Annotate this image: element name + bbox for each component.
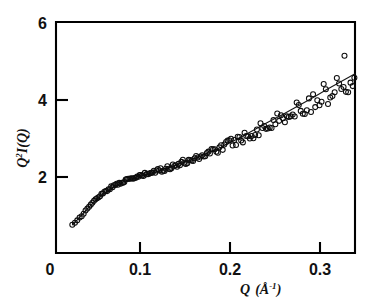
plot-frame: [56, 22, 355, 253]
y-tick-label-4: 4: [38, 92, 47, 109]
data-point: [311, 92, 316, 97]
svg-text:Q2I(Q): Q2I(Q): [14, 128, 31, 168]
x-tick-label-0.3: 0.3: [309, 261, 331, 278]
y-axis-ticks: [56, 23, 68, 177]
data-point-group: [70, 53, 357, 227]
data-point: [326, 101, 331, 106]
data-point: [215, 150, 220, 155]
y-tick-labels: 6 4 2: [38, 15, 47, 186]
x-axis-ticks: [140, 242, 320, 253]
x-tick-label-0.1: 0.1: [129, 261, 151, 278]
data-point: [334, 76, 339, 81]
frame-box: [56, 22, 355, 253]
y-tick-label-2: 2: [38, 169, 47, 186]
x-axis-title: Q(Å-1): [240, 281, 281, 298]
figure-container: 6 4 2 0 0.1 0.2 0.3 Q(Å-1) Q2I(Q): [0, 0, 380, 303]
y-axis-title-symbol: Q: [15, 158, 30, 168]
svg-text:Q(Å-1): Q(Å-1): [240, 281, 281, 298]
data-point: [256, 133, 261, 138]
data-point: [234, 142, 239, 147]
x-axis-title-unit-open: (Å: [255, 282, 269, 298]
data-point: [321, 82, 326, 87]
x-axis-title-exponent: -1: [269, 281, 277, 291]
x-tick-labels: 0 0.1 0.2 0.3: [46, 261, 332, 278]
x-tick-label-0.2: 0.2: [219, 261, 241, 278]
y-axis-title: Q2I(Q): [14, 128, 31, 168]
data-point: [342, 53, 347, 58]
y-tick-label-6: 6: [38, 15, 47, 32]
data-point: [332, 90, 337, 95]
x-tick-label-0: 0: [46, 261, 55, 278]
y-axis-title-rest: I(Q): [15, 128, 31, 154]
x-axis-title-symbol: Q: [240, 282, 250, 297]
scatter-plot: 6 4 2 0 0.1 0.2 0.3 Q(Å-1) Q2I(Q): [0, 0, 380, 303]
